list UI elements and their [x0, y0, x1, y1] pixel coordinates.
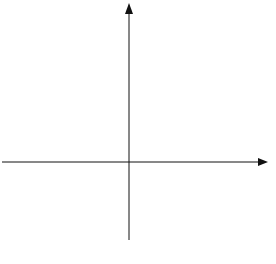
parabola-family-diagram [0, 0, 276, 264]
y-axis-arrow-icon [125, 3, 133, 14]
x-axis [2, 158, 268, 166]
x-axis-arrow-icon [258, 158, 268, 166]
y-axis [125, 3, 133, 240]
